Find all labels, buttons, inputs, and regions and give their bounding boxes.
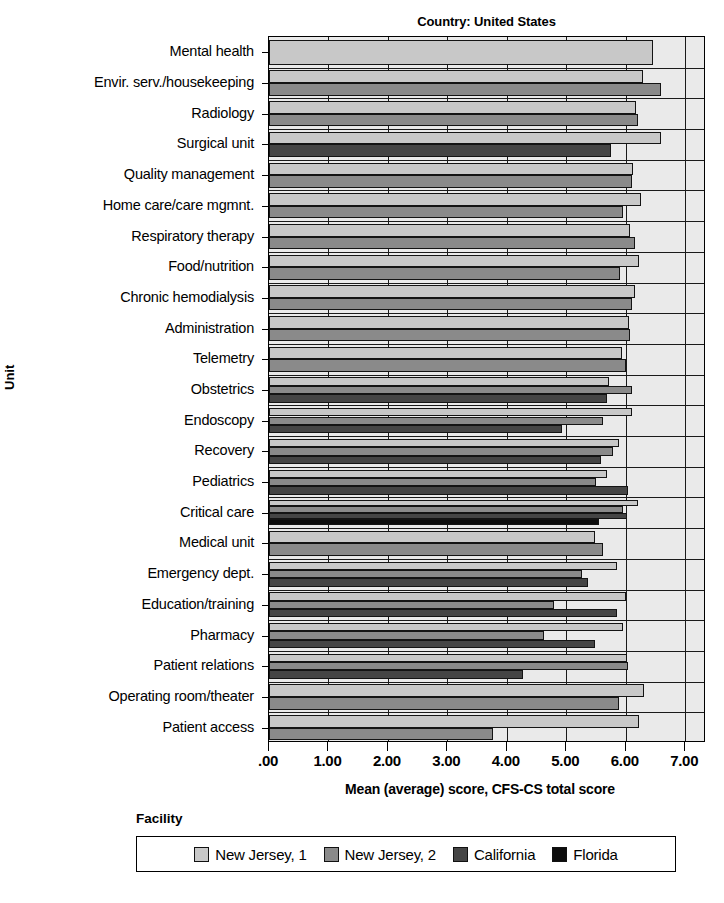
- x-axis-tick: [684, 742, 685, 751]
- bar: [269, 206, 623, 219]
- y-axis-label: Envir. serv./housekeeping: [94, 74, 254, 90]
- band-separator: [269, 620, 704, 621]
- band-separator: [269, 682, 704, 683]
- y-axis-tick: [262, 298, 269, 299]
- legend-label: New Jersey, 2: [345, 846, 436, 863]
- x-axis-tick: [327, 742, 328, 751]
- band-separator: [269, 129, 704, 130]
- y-axis-tick: [262, 636, 269, 637]
- chart-figure: Country: United States Mental healthEnvi…: [0, 0, 724, 903]
- bar: [269, 623, 623, 631]
- band-separator: [269, 436, 704, 437]
- y-axis-label: Quality management: [124, 166, 254, 182]
- y-axis-tick: [262, 605, 269, 606]
- bar: [269, 255, 639, 268]
- bar: [269, 531, 595, 544]
- bar: [269, 193, 641, 206]
- legend-swatch-icon: [194, 847, 209, 862]
- y-axis-tick: [262, 83, 269, 84]
- x-axis-tick: [565, 742, 566, 751]
- band-separator: [269, 68, 704, 69]
- x-axis-tick: [268, 742, 269, 751]
- bar: [269, 285, 635, 298]
- x-axis-tick-label: 5.00: [551, 752, 579, 769]
- y-axis-tick: [262, 421, 269, 422]
- x-axis-ticks: [268, 742, 705, 752]
- bar: [269, 609, 617, 617]
- x-axis-title: Mean (average) score, CFS-CS total score: [240, 781, 720, 797]
- x-axis-tick-label: 2.00: [373, 752, 401, 769]
- bar: [269, 224, 630, 237]
- bar: [269, 519, 599, 525]
- band-separator: [269, 283, 704, 284]
- y-axis-label: Critical care: [180, 504, 254, 520]
- band-separator: [269, 405, 704, 406]
- bar: [269, 144, 611, 157]
- y-axis-tick: [262, 359, 269, 360]
- bar: [269, 640, 595, 648]
- band-separator: [269, 190, 704, 191]
- y-axis-tick: [262, 390, 269, 391]
- y-axis-tick: [262, 666, 269, 667]
- x-axis-tick: [625, 742, 626, 751]
- bar: [269, 670, 523, 678]
- legend-entry[interactable]: New Jersey, 2: [324, 846, 436, 863]
- bar: [269, 298, 632, 311]
- y-axis-label: Pharmacy: [190, 627, 254, 643]
- bar: [269, 377, 609, 385]
- legend-entry[interactable]: New Jersey, 1: [194, 846, 306, 863]
- y-axis-tick: [262, 237, 269, 238]
- bar: [269, 347, 622, 360]
- bar: [269, 101, 636, 114]
- band-separator: [269, 98, 704, 99]
- legend-entry[interactable]: California: [453, 846, 535, 863]
- y-axis-label: Home care/care mgmnt.: [103, 197, 254, 213]
- bar: [269, 175, 632, 188]
- scan-artifact: [0, 884, 724, 903]
- y-axis-label: Mental health: [170, 43, 254, 59]
- bar: [269, 715, 639, 728]
- band-separator: [269, 651, 704, 652]
- x-axis-tick: [446, 742, 447, 751]
- bar: [269, 570, 582, 578]
- y-axis-tick: [262, 144, 269, 145]
- y-axis-label: Emergency dept.: [147, 565, 254, 581]
- bar: [269, 601, 554, 609]
- bar: [269, 697, 619, 710]
- y-axis-tick: [262, 267, 269, 268]
- bar: [269, 316, 629, 329]
- bar: [269, 408, 632, 416]
- y-axis-tick: [262, 513, 269, 514]
- y-axis-label: Medical unit: [179, 534, 254, 550]
- y-axis-tick: [262, 175, 269, 176]
- bar: [269, 456, 601, 464]
- y-axis-tick: [262, 52, 269, 53]
- bar: [269, 562, 617, 570]
- y-axis-label: Recovery: [194, 442, 254, 458]
- bar: [269, 543, 603, 556]
- y-axis-label: Chronic hemodialysis: [120, 289, 254, 305]
- bar: [269, 425, 562, 433]
- bar: [269, 329, 630, 342]
- plot-area: [268, 36, 705, 742]
- bar: [269, 70, 643, 83]
- bar: [269, 728, 493, 741]
- bar: [269, 386, 632, 394]
- legend-entry[interactable]: Florida: [552, 846, 617, 863]
- bar: [269, 417, 603, 425]
- y-axis-tick: [262, 543, 269, 544]
- y-axis-label: Radiology: [191, 105, 254, 121]
- legend-label: California: [474, 846, 535, 863]
- legend-label: New Jersey, 1: [215, 846, 306, 863]
- x-axis-tick-label: 3.00: [432, 752, 460, 769]
- y-axis-tick: [262, 482, 269, 483]
- bar: [269, 578, 588, 586]
- y-axis-label: Endoscopy: [184, 412, 254, 428]
- y-axis-label: Education/training: [142, 596, 254, 612]
- bar: [269, 114, 638, 127]
- y-axis-label: Administration: [165, 320, 254, 336]
- band-separator: [269, 252, 704, 253]
- y-axis-label: Telemetry: [193, 350, 254, 366]
- y-axis-tick: [262, 697, 269, 698]
- band-separator: [269, 497, 704, 498]
